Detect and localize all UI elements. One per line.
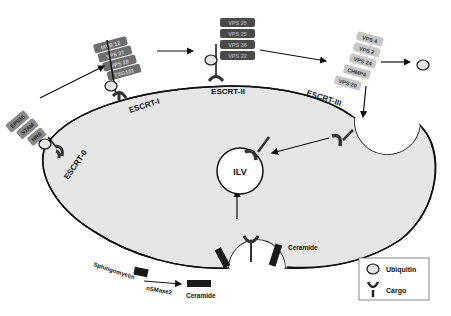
protein-box-vps22: VPS 22 (220, 51, 255, 60)
ubiquitin-icon (205, 55, 217, 65)
protein-box-vps25b: VPS 25 (220, 29, 255, 38)
ubiquitin-icon (417, 60, 429, 70)
cargo-icon (113, 92, 126, 100)
ubiquitin-icon (105, 81, 117, 91)
escrt-ii-label: ESCRT-II (211, 87, 245, 96)
sphingomyelin-block (133, 267, 148, 278)
protein-box-vps20: VPS 20 (334, 75, 362, 91)
legend-ubiquitin-label: Ubiquitin (386, 266, 416, 274)
nsmase2-label: nSMase2 (146, 285, 173, 296)
svg-text:VPS 25: VPS 25 (228, 20, 247, 26)
svg-text:VPS 22: VPS 22 (228, 53, 247, 59)
protein-box-vps36: VPS 36 (220, 40, 255, 49)
escrt-diagram: HRS STAM EPS15 ESCRT-0 TSG101 VPS 28 VPS… (0, 0, 451, 316)
arrow-escrt2-to-escrt3 (260, 50, 326, 61)
ceramide-budding-label: Ceramide (288, 244, 318, 251)
escrt-ii-complex: VPS 25 VPS 25 VPS 36 VPS 22 (220, 18, 255, 60)
arrow-nsmase2 (144, 281, 181, 284)
sphingomyelin-label: Sphingomyelin (93, 261, 136, 280)
ceramide-product-label: Ceramide (186, 292, 216, 299)
protein-box-vps25a: VPS 25 (220, 18, 255, 27)
ceramide-block (187, 280, 211, 287)
arrow-escrt3-down (363, 86, 366, 117)
legend: Ubiquitin Cargo (359, 258, 429, 300)
arrow-escrt0-to-escrt1 (40, 66, 104, 98)
escrt-i-complex: TSG101 VPS 28 VPS 37 MVB 12 (93, 34, 142, 82)
svg-text:VPS 36: VPS 36 (228, 42, 247, 48)
ubiquitin-icon (367, 264, 379, 274)
ubiquitin-icon (39, 139, 51, 149)
escrt-iii-complex: VPS 4 VPS 2 VPS 24 CHMP4 VPS 20 (334, 31, 384, 91)
svg-text:VPS 25: VPS 25 (228, 31, 247, 37)
cargo-icon (209, 77, 223, 82)
ilv-label: ILV (233, 167, 246, 177)
legend-cargo-label: Cargo (386, 287, 406, 295)
